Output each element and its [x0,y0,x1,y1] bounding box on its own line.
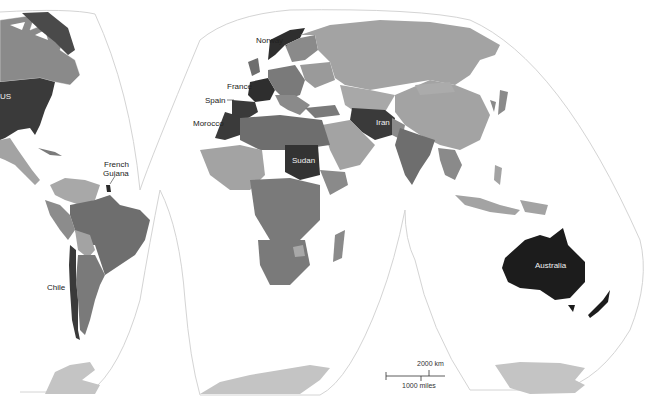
french-guiana [106,185,111,192]
mexico-central-america [0,138,40,185]
north-america [0,12,80,185]
central-europe [268,65,305,100]
japan [498,90,508,115]
north-africa [240,115,330,150]
italy-balkans [275,95,310,115]
scale-km-label: 2000 km [417,360,444,367]
tasmania [568,305,575,312]
label-french-guiana-2: Guiana [103,169,129,178]
turkey [305,105,340,118]
papua [520,200,548,215]
new-zealand [588,290,610,318]
zimbabwe [293,245,305,257]
antarctica [45,362,585,394]
indonesia [455,195,520,215]
label-us: US [0,92,11,101]
label-norway: Norway [256,36,283,45]
label-australia: Australia [535,261,566,270]
scale-bar [386,370,445,381]
philippines [494,165,502,185]
label-morocco: Morocco [193,119,224,128]
caribbean-cuba [38,148,62,156]
world-map [0,0,659,404]
south-america [45,178,150,340]
oceania [502,228,610,318]
label-sudan: Sudan [292,156,315,165]
argentina [76,255,105,335]
central-africa [250,178,320,240]
madagascar [333,230,345,262]
united-states [0,78,55,140]
scale-miles-label: 1000 miles [402,382,436,389]
horn-of-africa [320,170,348,195]
africa-middle-east [200,112,375,285]
southeast-asia [438,148,462,180]
label-iran: Iran [376,118,390,127]
label-france: France [227,82,252,91]
label-french-guiana-1: French [104,160,129,169]
ukraine-belarus [300,62,335,88]
label-spain: Spain [205,96,225,105]
uk-ireland [248,58,260,76]
korea [490,100,496,112]
label-chile: Chile [47,283,65,292]
